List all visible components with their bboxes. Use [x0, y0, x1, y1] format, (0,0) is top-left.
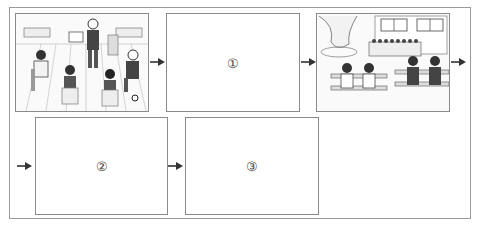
panel-schoolyard-scene [316, 13, 450, 112]
panel-number: ① [227, 55, 239, 70]
arrow-right-icon [451, 57, 466, 67]
panel-blank-1: ① [166, 13, 300, 112]
panel-number: ③ [246, 159, 258, 174]
panel-blank-2: ② [35, 117, 168, 215]
panel-classroom-scene [15, 13, 149, 112]
arrow-right-icon [17, 161, 32, 171]
classroom-illustration [16, 14, 148, 111]
arrow-right-icon [150, 57, 165, 67]
schoolyard-illustration [317, 14, 449, 111]
panel-blank-3: ③ [185, 117, 319, 215]
panel-number: ② [96, 159, 108, 174]
arrow-right-icon [301, 57, 316, 67]
arrow-right-icon [168, 161, 183, 171]
